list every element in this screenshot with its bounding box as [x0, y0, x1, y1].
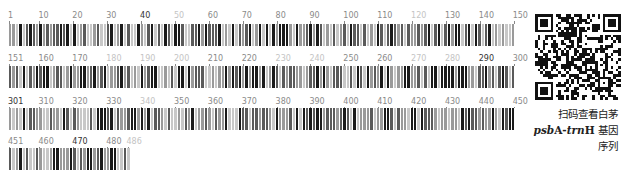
position-tick: 20	[72, 11, 82, 20]
base-bar	[512, 24, 515, 46]
position-tick: 470	[72, 137, 87, 146]
barcode-bars	[9, 66, 515, 88]
base-bar	[512, 108, 515, 130]
position-tick: 210	[208, 54, 223, 63]
position-tick: 290	[479, 54, 494, 63]
position-tick: 410	[377, 97, 392, 106]
position-tick: 160	[38, 54, 53, 63]
position-tick: 340	[140, 97, 155, 106]
position-tick: 60	[208, 11, 218, 20]
base-bar	[127, 148, 130, 170]
position-tick: 200	[174, 54, 189, 63]
position-tick: 150	[513, 11, 528, 20]
position-tick: 360	[208, 97, 223, 106]
position-tick: 230	[276, 54, 291, 63]
tick-labels: 1511601701801902002102202302402502602702…	[9, 54, 529, 66]
position-tick: 70	[242, 11, 252, 20]
position-tick: 320	[72, 97, 87, 106]
position-tick: 240	[309, 54, 324, 63]
qr-code[interactable]	[535, 14, 621, 100]
position-tick: 180	[106, 54, 121, 63]
barcode-bars	[9, 148, 131, 170]
position-tick: 380	[276, 97, 291, 106]
position-tick: 486	[127, 137, 142, 146]
position-tick: 310	[38, 97, 53, 106]
position-tick: 40	[140, 11, 150, 20]
position-tick: 350	[174, 97, 189, 106]
position-tick: 100	[343, 11, 358, 20]
position-tick: 30	[106, 11, 116, 20]
position-tick: 90	[309, 11, 319, 20]
position-tick: 330	[106, 97, 121, 106]
position-tick: 430	[445, 97, 460, 106]
position-tick: 301	[8, 97, 23, 106]
position-tick: 400	[343, 97, 358, 106]
position-tick: 80	[276, 11, 286, 20]
caption-line-3: 序列	[528, 138, 618, 154]
position-tick: 300	[513, 54, 528, 63]
caption: 扫码查看白茅 psbA-trnH 基因 序列	[528, 106, 618, 154]
position-tick: 250	[343, 54, 358, 63]
barcode-bars	[9, 108, 515, 130]
position-tick: 450	[513, 97, 528, 106]
position-tick: 120	[411, 11, 426, 20]
position-tick: 110	[377, 11, 392, 20]
position-tick: 151	[8, 54, 23, 63]
position-tick: 10	[38, 11, 48, 20]
position-tick: 140	[479, 11, 494, 20]
position-tick: 170	[72, 54, 87, 63]
position-tick: 50	[174, 11, 184, 20]
position-tick: 370	[242, 97, 257, 106]
position-tick: 270	[411, 54, 426, 63]
position-tick: 130	[445, 11, 460, 20]
barcode-bars	[9, 24, 515, 46]
position-tick: 190	[140, 54, 155, 63]
position-tick: 460	[38, 137, 53, 146]
position-tick: 420	[411, 97, 426, 106]
tick-labels: 1102030405060708090100110120130140150	[9, 11, 529, 23]
position-tick: 480	[106, 137, 121, 146]
position-tick: 1	[8, 11, 13, 20]
caption-line-1: 扫码查看白茅	[528, 106, 618, 122]
position-tick: 451	[8, 137, 23, 146]
base-bar	[512, 66, 515, 88]
position-tick: 390	[309, 97, 324, 106]
position-tick: 440	[479, 97, 494, 106]
position-tick: 220	[242, 54, 257, 63]
caption-line-2: psbA-trnH 基因	[528, 122, 618, 138]
position-tick: 280	[445, 54, 460, 63]
position-tick: 260	[377, 54, 392, 63]
